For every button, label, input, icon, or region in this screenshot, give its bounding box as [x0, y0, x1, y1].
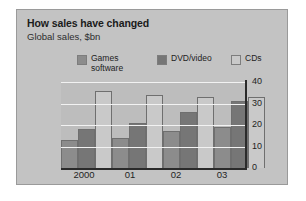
chart-legend: Games software DVD/video CDs: [73, 54, 285, 74]
legend-item-dvd-video: DVD/video: [157, 54, 212, 65]
bar-02-games-software: [163, 131, 180, 168]
legend-swatch-games-software-icon: [77, 55, 87, 65]
y-axis-tick-40: 40: [252, 77, 262, 86]
legend-item-cds: CDs: [231, 54, 262, 65]
x-axis-label-01: 01: [107, 169, 153, 181]
bar-2000-dvd-video: [78, 129, 95, 168]
y-axis-tick-30: 30: [252, 99, 262, 108]
chart-plot: [61, 82, 245, 168]
y-axis-tick-0: 0: [252, 163, 257, 172]
chart-title: How sales have changed: [27, 17, 278, 29]
bar-01-dvd-video: [129, 123, 146, 168]
gridline-10: [61, 147, 245, 148]
x-axis-label-02: 02: [153, 169, 199, 181]
legend-item-games-software: Games software: [77, 54, 123, 73]
y-axis-tick-10: 10: [252, 142, 262, 151]
legend-swatch-dvd-video-icon: [157, 55, 167, 65]
chart-card: How sales have changed Global sales, $bn…: [16, 9, 288, 185]
legend-label-games-software: Games software: [91, 54, 123, 73]
legend-swatch-cds-icon: [231, 55, 241, 65]
y-axis-line: [245, 80, 247, 168]
bar-02-cds: [197, 97, 214, 168]
x-axis-line: [61, 168, 247, 170]
gridline-40: [61, 82, 245, 83]
gridline-30: [61, 104, 245, 105]
x-axis-label-03: 03: [199, 169, 245, 181]
bar-03-games-software: [214, 127, 231, 168]
legend-label-cds: CDs: [245, 54, 262, 64]
legend-label-dvd-video: DVD/video: [171, 54, 212, 64]
bar-01-cds: [146, 95, 163, 168]
bar-03-cds: [248, 97, 265, 168]
gridline-20: [61, 125, 245, 126]
chart-subtitle: Global sales, $bn: [27, 31, 278, 42]
page-root: How sales have changed Global sales, $bn…: [0, 0, 306, 201]
x-axis-label-2000: 2000: [61, 169, 107, 181]
bar-02-dvd-video: [180, 112, 197, 168]
bar-01-games-software: [112, 138, 129, 168]
chart-x-axis-labels: 2000010203: [61, 169, 245, 181]
y-axis-tick-20: 20: [252, 120, 262, 129]
chart-plot-area: 010203040 2000010203: [27, 82, 279, 178]
bar-2000-games-software: [61, 140, 78, 168]
chart-card-inner: How sales have changed Global sales, $bn…: [17, 10, 287, 184]
